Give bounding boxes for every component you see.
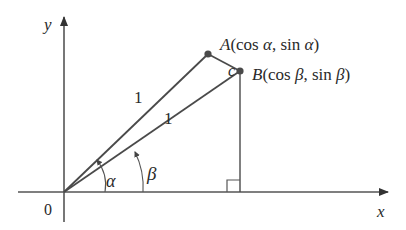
segment-OA xyxy=(64,54,208,192)
point-A-name: A xyxy=(219,35,231,54)
point-A-label: A(cos α, sin α) xyxy=(219,35,319,54)
unit-circle-distance-diagram: y x 0 1 1 c α β A(cos α, sin α) B(cos β,… xyxy=(0,0,406,230)
segment-AB-label-c: c xyxy=(228,62,235,79)
segment-AB xyxy=(208,54,240,71)
segment-OB-length-label: 1 xyxy=(164,109,173,128)
right-angle-marker xyxy=(227,180,240,192)
angle-beta-label: β xyxy=(146,163,157,184)
y-axis-label: y xyxy=(42,15,52,34)
point-A xyxy=(204,50,211,57)
angle-alpha-label: α xyxy=(106,171,116,191)
point-B-name: B xyxy=(252,65,263,84)
angle-arc-beta xyxy=(135,152,143,192)
origin-label: 0 xyxy=(44,201,52,218)
point-B-label: B(cos β, sin β) xyxy=(252,65,350,84)
x-axis-label: x xyxy=(376,202,385,221)
segment-OA-length-label: 1 xyxy=(134,88,143,107)
point-B xyxy=(236,67,243,74)
